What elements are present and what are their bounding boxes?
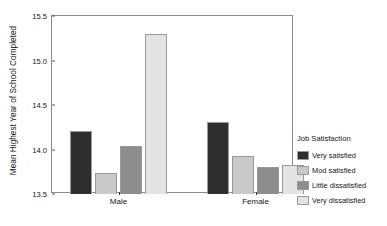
x-tick-label: Male — [110, 197, 127, 206]
legend: Job Satisfaction Very satisfiedMod satis… — [297, 134, 385, 208]
legend-item: Very dissatisfied — [297, 193, 385, 207]
bar — [232, 156, 254, 194]
legend-label: Very dissatisfied — [312, 196, 365, 205]
bar — [70, 131, 92, 194]
x-tick-mark — [119, 192, 120, 195]
y-tick-mark — [52, 60, 55, 61]
legend-label: Mod satisfied — [312, 166, 356, 175]
y-tick-mark — [52, 194, 55, 195]
plot-area: 13.514.014.515.015.5 MaleFemale — [51, 15, 293, 193]
x-tick-label: Female — [242, 197, 269, 206]
legend-swatch — [297, 151, 309, 160]
bar — [120, 146, 142, 194]
legend-swatch — [297, 166, 309, 175]
legend-title: Job Satisfaction — [297, 134, 385, 143]
x-tick-mark — [256, 192, 257, 195]
bar — [95, 173, 117, 194]
bar — [145, 34, 167, 194]
y-axis-title: Mean Highest Year of School Completed — [9, 6, 18, 196]
y-tick-label: 15.5 — [32, 12, 52, 21]
bar — [257, 167, 279, 194]
legend-swatch — [297, 181, 309, 190]
y-tick-label: 14.0 — [32, 145, 52, 154]
legend-item: Little dissatisfied — [297, 178, 385, 192]
bar — [207, 122, 229, 194]
legend-entries: Very satisfiedMod satisfiedLittle dissat… — [297, 148, 385, 207]
y-tick-mark — [52, 105, 55, 106]
legend-label: Very satisfied — [312, 151, 356, 160]
y-tick-label: 14.5 — [32, 101, 52, 110]
legend-label: Little dissatisfied — [312, 181, 366, 190]
y-tick-mark — [52, 149, 55, 150]
y-tick-label: 13.5 — [32, 190, 52, 199]
y-tick-mark — [52, 16, 55, 17]
y-tick-label: 15.0 — [32, 56, 52, 65]
legend-item: Mod satisfied — [297, 163, 385, 177]
legend-item: Very satisfied — [297, 148, 385, 162]
bar-chart: Mean Highest Year of School Completed 13… — [0, 0, 387, 226]
legend-swatch — [297, 196, 309, 205]
